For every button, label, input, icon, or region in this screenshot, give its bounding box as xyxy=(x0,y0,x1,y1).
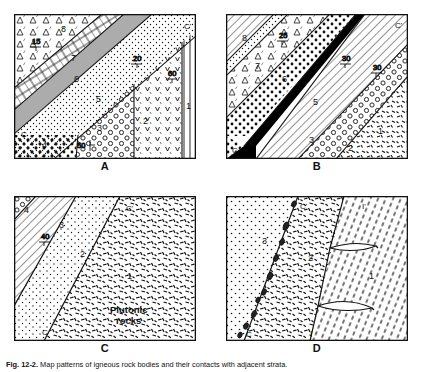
figure-geologic-map-patterns: 8 7 6 5 4 3 2 1 C C' 15 20 50 60 xyxy=(0,0,421,372)
unit-label-1: 1 xyxy=(378,126,383,136)
unit-label-6: 6 xyxy=(74,74,79,84)
section-label-c-left: C xyxy=(232,146,238,155)
figure-caption: Fig. 12-2. Map patterns of igneous rock … xyxy=(6,360,416,371)
unit-label-1: 1 xyxy=(186,101,191,111)
panel-d-drawing: 3 2 1 C' C I' I xyxy=(226,196,408,341)
unit-label-3: 3 xyxy=(262,236,267,246)
panel-d: 3 2 1 C' C I' I D xyxy=(226,196,408,341)
caption-text: Map patterns of igneous rock bodies and … xyxy=(40,360,287,369)
section-label-c-left: C xyxy=(42,328,48,337)
dip-label-60: 60 xyxy=(168,69,176,78)
panel-a: 8 7 6 5 4 3 2 1 C C' 15 20 50 60 xyxy=(14,14,196,159)
unit-label-8: 8 xyxy=(61,24,66,34)
dip-label-25: 25 xyxy=(279,31,287,40)
panel-c-drawing: 4 3 2 1 C C' 40 Plutonic rocks xyxy=(14,196,196,341)
dip-label-30-right: 30 xyxy=(373,63,381,72)
section-label-c-left: C xyxy=(246,330,252,339)
dip-label-50: 50 xyxy=(77,141,85,150)
panel-d-letter: D xyxy=(305,342,329,354)
dip-label-30-left: 30 xyxy=(342,54,350,63)
unit-label-2: 2 xyxy=(143,116,148,126)
section-label-c-right: C' xyxy=(126,204,134,213)
unit-label-1: 1 xyxy=(369,271,374,281)
unit-label-4: 4 xyxy=(42,140,47,150)
plutonic-label-line2: rocks xyxy=(116,315,141,326)
unit-label-3: 3 xyxy=(97,123,102,133)
unit-label-1: 1 xyxy=(127,271,132,281)
dip-label-15: 15 xyxy=(32,37,40,46)
panel-b-drawing: 8 7 6 5 4 3 2 1 C C' 25 30 30 xyxy=(226,14,408,159)
section-label-c-right: C' xyxy=(184,22,192,31)
unit-label-2: 2 xyxy=(308,253,313,263)
panel-a-letter: A xyxy=(93,160,117,172)
unit-label-8: 8 xyxy=(242,33,247,43)
caption-label: Fig. 12-2. xyxy=(6,360,38,369)
plutonic-label-line1: Plutonic xyxy=(110,304,147,315)
unit-label-4: 4 xyxy=(249,139,254,149)
section-label-c-right: C' xyxy=(395,21,403,30)
section-label-i-left: I xyxy=(310,330,312,339)
panel-b: 8 7 6 5 4 3 2 1 C C' 25 30 30 B xyxy=(226,14,408,159)
panel-c: 4 3 2 1 C C' 40 Plutonic rocks C xyxy=(14,196,196,341)
unit-label-2: 2 xyxy=(348,143,353,153)
unit-label-7: 7 xyxy=(255,61,260,71)
section-label-c-left: C xyxy=(21,130,27,139)
dip-label-20: 20 xyxy=(133,54,141,63)
unit-label-3: 3 xyxy=(59,220,64,230)
section-label-c-right: C' xyxy=(300,202,308,211)
unit-label-3: 3 xyxy=(309,135,314,145)
unit-label-5: 5 xyxy=(313,97,318,107)
dip-label-40: 40 xyxy=(41,232,49,241)
panel-b-letter: B xyxy=(305,160,329,172)
unit-label-2: 2 xyxy=(80,249,85,259)
section-label-i-right: I' xyxy=(362,202,366,211)
unit-label-5: 5 xyxy=(96,94,101,104)
panel-c-letter: C xyxy=(93,342,117,354)
unit-label-4: 4 xyxy=(24,205,29,215)
unit-label-6: 6 xyxy=(282,74,287,84)
unit-label-7: 7 xyxy=(71,53,76,63)
panel-a-drawing: 8 7 6 5 4 3 2 1 C C' 15 20 50 60 xyxy=(14,14,196,159)
